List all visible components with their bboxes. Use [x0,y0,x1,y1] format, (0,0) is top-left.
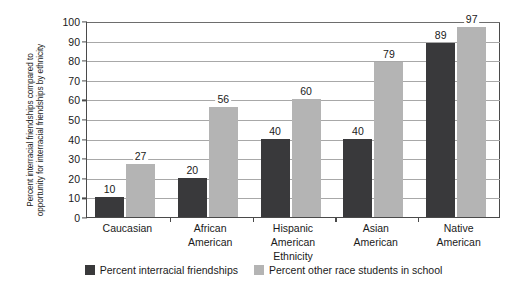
x-category-label: AfricanAmerican [169,222,252,250]
x-category-label: HispanicAmericanEthnicity [252,222,335,264]
x-axis-category-labels: CaucasianAfricanAmericanHispanicAmerican… [86,222,500,268]
x-category-label-line: Native [417,222,500,236]
x-category-label-line: African [169,222,252,236]
bar: 89 [426,43,455,217]
x-category-label-line: Caucasian [86,222,169,236]
y-tick-label: 30 [68,153,87,165]
legend-item[interactable]: Percent interracial friendships [85,264,238,276]
y-tick-label: 80 [68,55,87,67]
bar-value-label: 27 [133,150,149,162]
y-tick-label: 10 [68,192,87,204]
bar: 40 [343,139,372,217]
x-category-label-line: American [169,236,252,250]
bar: 60 [292,99,321,217]
bar-value-label: 20 [184,164,200,176]
bar-group: 4079 [335,22,418,217]
bar-chart: Percent interracial friendships compared… [0,0,527,286]
y-tick-label: 60 [68,94,87,106]
bar-value-label: 60 [298,85,314,97]
x-category-label-line: American [417,236,500,250]
x-category-label: NativeAmerican [417,222,500,250]
x-category-label-line: Hispanic [252,222,335,236]
y-axis-title-line-2: opportunity for interracial friendships … [36,44,46,216]
legend-swatch-light [254,265,264,275]
bar: 97 [457,27,486,217]
x-category-label-line: Ethnicity [252,250,335,264]
y-tick-label: 50 [68,114,87,126]
bar: 27 [126,164,155,217]
bar-groups: 10272056406040798997 [87,22,500,217]
x-category-label-line: Asian [334,222,417,236]
legend-label: Percent other race students in school [269,264,442,276]
bar-value-label: 97 [464,13,480,25]
legend-item[interactable]: Percent other race students in school [254,264,442,276]
bar-value-label: 56 [215,93,231,105]
bar-value-label: 79 [381,48,397,60]
bar: 56 [209,107,238,217]
y-tick-label: 70 [68,75,87,87]
x-category-label-line: American [334,236,417,250]
y-tick-label: 20 [68,173,87,185]
x-category-label: Caucasian [86,222,169,236]
y-tick-label: 100 [62,16,87,28]
bar-group: 2056 [170,22,253,217]
legend-label: Percent interracial friendships [100,264,238,276]
bar-group: 8997 [418,22,501,217]
bar-value-label: 10 [102,183,118,195]
bar-value-label: 40 [350,125,366,137]
y-axis-title: Percent interracial friendships compared… [20,23,52,238]
legend-swatch-dark [85,265,95,275]
y-tick-label: 40 [68,134,87,146]
bar-value-label: 40 [267,125,283,137]
chart-legend: Percent interracial friendshipsPercent o… [0,264,527,276]
x-category-label: AsianAmerican [334,222,417,250]
bar-value-label: 89 [433,29,449,41]
bar: 10 [95,197,124,217]
x-category-label-line: American [252,236,335,250]
bar: 79 [374,62,403,217]
y-tick-label: 90 [68,36,87,48]
bar: 40 [261,139,290,217]
bar: 20 [178,178,207,217]
bar-group: 1027 [87,22,170,217]
plot-area: 0102030405060708090100 10272056406040798… [86,22,500,218]
bar-group: 4060 [253,22,336,217]
